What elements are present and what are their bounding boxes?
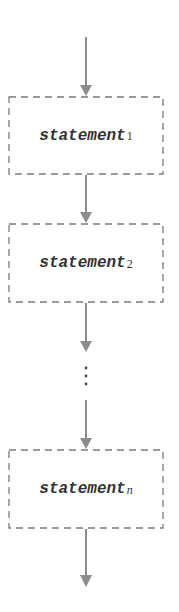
statement-label-2: statement2: [8, 223, 164, 303]
sequential-flow-diagram: statement1 statement2 stateme: [0, 0, 179, 612]
statement-box-2: statement2: [8, 223, 164, 302]
exit-arrow: [0, 529, 179, 589]
arrow-ellipsis-to-n: [0, 400, 179, 450]
statement-label-n: statementn: [8, 449, 164, 529]
statement-name: statement: [39, 127, 125, 145]
statement-subscript: 2: [127, 257, 133, 272]
entry-arrow: [0, 37, 179, 97]
statement-name: statement: [39, 480, 125, 498]
arrow-2-to-ellipsis: [0, 303, 179, 353]
statement-box-1: statement1: [8, 96, 164, 175]
statement-name: statement: [39, 254, 125, 272]
statement-box-n: statementn: [8, 449, 164, 529]
statement-label-1: statement1: [8, 96, 164, 175]
arrow-1-to-2: [0, 175, 179, 224]
statement-subscript: n: [127, 483, 133, 498]
vertical-ellipsis-icon: [84, 364, 88, 388]
statement-subscript: 1: [127, 129, 133, 144]
